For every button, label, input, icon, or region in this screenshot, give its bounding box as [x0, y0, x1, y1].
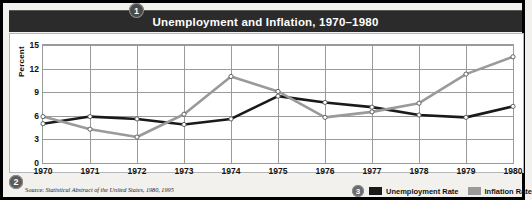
data-point-marker — [182, 122, 186, 126]
series-line — [43, 96, 513, 124]
x-tick-label: 1971 — [81, 166, 100, 176]
x-tick-label: 1975 — [269, 166, 288, 176]
x-tick-label: 1979 — [457, 166, 476, 176]
data-point-marker — [464, 72, 468, 76]
source-note: Source: Statistical Abstract of the Unit… — [25, 186, 174, 193]
callout-badge-1: 1 — [129, 3, 144, 18]
y-tick-label: 6 — [34, 111, 39, 121]
source-citation: Statistical Abstract of the United State… — [45, 186, 173, 193]
data-point-marker — [276, 94, 280, 98]
x-tick-label: 1976 — [316, 166, 335, 176]
data-point-marker — [88, 114, 92, 118]
data-point-marker — [464, 115, 468, 119]
data-point-marker — [41, 122, 45, 126]
legend-swatch-icon — [369, 187, 382, 195]
data-point-marker — [323, 100, 327, 104]
plot-panel: Percent 03691215 19701971197219731974197… — [9, 33, 524, 173]
data-point-marker — [511, 55, 515, 59]
y-tick-label: 15 — [30, 40, 39, 50]
legend-entry: Unemployment Rate — [369, 187, 459, 196]
data-point-marker — [417, 113, 421, 117]
data-point-marker — [276, 89, 280, 93]
x-tick-label: 1980 — [504, 166, 523, 176]
callout-badge-2: 2 — [9, 175, 23, 189]
chart-title-bar: Unemployment and Inflation, 1970–1980 — [9, 10, 522, 32]
data-point-marker — [88, 127, 92, 131]
x-tick-label: 1974 — [222, 166, 241, 176]
y-tick-label: 3 — [34, 134, 39, 144]
x-tick-label: 1977 — [363, 166, 382, 176]
source-lead: Source: — [25, 186, 44, 193]
legend-label: Inflation Rate — [485, 187, 532, 196]
y-tick-label: 9 — [34, 87, 39, 97]
data-point-marker — [229, 117, 233, 121]
data-point-marker — [182, 112, 186, 116]
x-tick-label: 1973 — [175, 166, 194, 176]
data-point-marker — [370, 110, 374, 114]
legend-swatch-icon — [468, 187, 481, 195]
callout-badge-3: 3 — [352, 185, 364, 197]
data-point-marker — [370, 105, 374, 109]
data-point-marker — [323, 115, 327, 119]
data-point-marker — [511, 104, 515, 108]
legend-label: Unemployment Rate — [386, 187, 459, 196]
page-title: Unemployment and Inflation, 1970–1980 — [153, 16, 379, 28]
data-point-marker — [417, 101, 421, 105]
data-point-marker — [229, 74, 233, 78]
data-point-marker — [41, 114, 45, 118]
legend-entry: Inflation Rate — [468, 187, 532, 196]
y-axis-label: Percent — [17, 46, 26, 77]
data-point-marker — [135, 117, 139, 121]
x-tick-label: 1970 — [34, 166, 53, 176]
plot-area: Percent 03691215 19701971197219731974197… — [42, 44, 514, 164]
x-tick-label: 1978 — [410, 166, 429, 176]
chart-series-svg — [43, 45, 513, 163]
data-point-marker — [135, 135, 139, 139]
y-tick-label: 12 — [30, 64, 39, 74]
x-tick-label: 1972 — [128, 166, 147, 176]
chart-legend: Unemployment RateInflation Rate — [369, 185, 532, 197]
